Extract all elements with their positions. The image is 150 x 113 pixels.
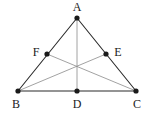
cevian-cf bbox=[47, 54, 136, 91]
vertex-label-e: E bbox=[114, 46, 121, 58]
cevian-be bbox=[18, 54, 106, 91]
point-marker-b bbox=[15, 88, 20, 93]
point-marker-f bbox=[44, 51, 49, 56]
point-marker-a bbox=[74, 15, 79, 20]
geometry-figure: ABCDEF bbox=[0, 0, 150, 113]
vertex-label-a: A bbox=[73, 1, 82, 13]
point-marker-d bbox=[74, 88, 79, 93]
point-marker-e bbox=[103, 51, 108, 56]
vertex-label-b: B bbox=[12, 98, 20, 110]
vertex-label-d: D bbox=[73, 98, 82, 110]
vertex-label-c: C bbox=[133, 98, 141, 110]
vertex-label-f: F bbox=[33, 46, 40, 58]
point-marker-c bbox=[133, 88, 138, 93]
